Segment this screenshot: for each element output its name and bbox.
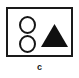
bordered-rectangle-frame [6,7,73,57]
figure-caption-label: c [0,62,79,73]
filled-triangle [41,24,68,47]
circle-outline-top [19,16,36,34]
circle-outline-bottom [19,35,36,53]
figure-panel: c [0,0,79,78]
